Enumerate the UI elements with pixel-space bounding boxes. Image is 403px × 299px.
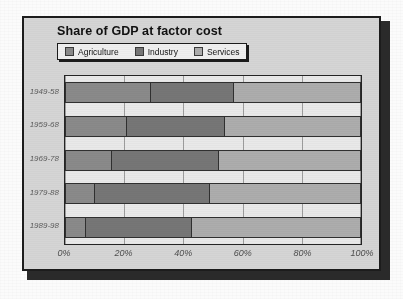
bar-segment-services[interactable]	[219, 150, 361, 171]
bar-row	[65, 150, 361, 171]
chart-legend: AgricultureIndustryServices	[57, 43, 247, 60]
bar-segment-services[interactable]	[234, 82, 361, 103]
bar-segment-agriculture[interactable]	[65, 82, 151, 103]
bar-segment-agriculture[interactable]	[65, 150, 112, 171]
y-axis-labels: 1949-581959-681969-781979-881989-98	[24, 75, 62, 245]
legend-item-agriculture[interactable]: Agriculture	[65, 47, 119, 57]
x-axis-labels: 0%20%40%60%80%100%	[64, 248, 362, 264]
bar-segment-industry[interactable]	[112, 150, 219, 171]
legend-item-industry[interactable]: Industry	[135, 47, 178, 57]
x-axis-tick-label: 100%	[350, 248, 373, 258]
x-axis-tick-label: 0%	[57, 248, 70, 258]
x-axis-tick-label: 20%	[115, 248, 133, 258]
legend-item-label: Industry	[148, 47, 178, 57]
bar-segment-industry[interactable]	[151, 82, 234, 103]
bar-row	[65, 183, 361, 204]
y-axis-label: 1969-78	[30, 154, 59, 163]
legend-item-label: Agriculture	[78, 47, 119, 57]
x-axis-tick-label: 40%	[174, 248, 192, 258]
plot-area	[64, 75, 362, 245]
y-axis-label: 1989-98	[30, 221, 59, 230]
legend-item-label: Services	[207, 47, 240, 57]
bar-segment-industry[interactable]	[95, 183, 210, 204]
bar-segment-services[interactable]	[210, 183, 361, 204]
bar-row	[65, 217, 361, 238]
chart-panel: Share of GDP at factor cost AgricultureI…	[22, 16, 381, 271]
bar-series-container	[65, 76, 361, 244]
bar-segment-agriculture[interactable]	[65, 183, 95, 204]
x-axis-tick-label: 60%	[234, 248, 252, 258]
y-axis-label: 1959-68	[30, 120, 59, 129]
bar-segment-industry[interactable]	[127, 116, 225, 137]
legend-swatch-icon	[135, 47, 144, 56]
bar-segment-agriculture[interactable]	[65, 217, 86, 238]
bar-segment-agriculture[interactable]	[65, 116, 127, 137]
bar-segment-services[interactable]	[225, 116, 361, 137]
bar-row	[65, 116, 361, 137]
y-axis-label: 1979-88	[30, 188, 59, 197]
bar-row	[65, 82, 361, 103]
legend-swatch-icon	[194, 47, 203, 56]
bar-segment-services[interactable]	[192, 217, 361, 238]
x-axis-tick-label: 80%	[293, 248, 311, 258]
bar-segment-industry[interactable]	[86, 217, 193, 238]
chart-title: Share of GDP at factor cost	[57, 24, 222, 38]
y-axis-label: 1949-58	[30, 87, 59, 96]
legend-item-services[interactable]: Services	[194, 47, 240, 57]
legend-swatch-icon	[65, 47, 74, 56]
